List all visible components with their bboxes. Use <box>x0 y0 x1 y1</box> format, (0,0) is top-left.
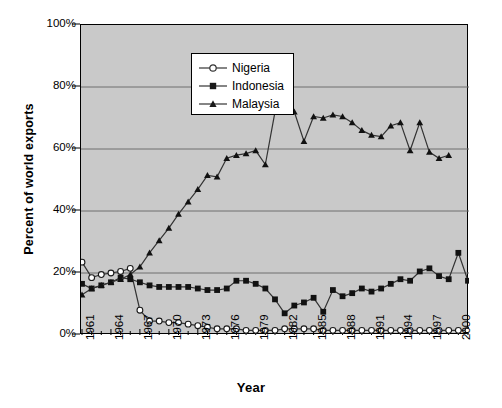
x-axis-tick-label: 1991 <box>375 314 386 340</box>
data-point-indonesia <box>388 281 394 287</box>
data-point-indonesia <box>291 303 297 309</box>
x-axis-tick-label: 1997 <box>432 314 443 340</box>
legend-item-nigeria[interactable]: Nigeria <box>192 59 293 77</box>
data-point-indonesia <box>205 287 211 293</box>
data-point-indonesia <box>262 286 268 292</box>
y-axis-ticks <box>70 0 80 408</box>
data-point-indonesia <box>156 284 162 290</box>
data-point-malaysia <box>397 119 404 125</box>
data-point-nigeria <box>81 259 85 265</box>
data-point-nigeria <box>243 327 249 333</box>
data-point-indonesia <box>137 279 143 285</box>
data-point-indonesia <box>407 278 413 284</box>
data-point-indonesia <box>176 284 182 290</box>
x-axis-tick-label: 1982 <box>288 314 299 340</box>
filled-triangle-marker-icon <box>198 98 228 110</box>
data-point-malaysia <box>416 119 423 125</box>
open-circle-marker-icon <box>198 62 228 74</box>
data-point-nigeria <box>446 327 452 333</box>
data-point-malaysia <box>330 112 337 118</box>
data-point-nigeria <box>137 307 143 313</box>
data-point-indonesia <box>81 281 85 287</box>
legend: Nigeria Indonesia Malays <box>191 53 294 115</box>
data-point-nigeria <box>156 318 162 324</box>
data-point-nigeria <box>89 275 95 281</box>
data-point-indonesia <box>378 286 384 292</box>
data-point-indonesia <box>253 281 259 287</box>
filled-square-marker-icon <box>198 80 228 92</box>
data-point-indonesia <box>369 289 375 295</box>
x-axis-tick-label: 1964 <box>114 314 125 340</box>
data-point-indonesia <box>301 300 307 306</box>
legend-item-indonesia[interactable]: Indonesia <box>192 77 293 95</box>
data-point-nigeria <box>98 272 104 278</box>
data-point-indonesia <box>398 276 404 282</box>
data-point-indonesia <box>195 286 201 292</box>
x-axis-tick-label: 1973 <box>201 314 212 340</box>
data-point-nigeria <box>417 327 423 333</box>
data-point-malaysia <box>368 132 375 138</box>
series-line-malaysia <box>82 110 449 294</box>
y-axis-title: Percent of world exports <box>22 84 36 274</box>
x-axis-tick-label: 1976 <box>230 314 241 340</box>
data-point-nigeria <box>388 327 394 333</box>
legend-item-malaysia[interactable]: Malaysia <box>192 95 293 113</box>
data-point-indonesia <box>349 290 355 296</box>
data-point-malaysia <box>407 147 414 153</box>
data-point-indonesia <box>185 284 191 290</box>
data-point-indonesia <box>455 250 461 256</box>
data-point-malaysia <box>426 149 433 155</box>
data-point-malaysia <box>349 119 356 125</box>
x-axis-tick-label: 1967 <box>143 314 154 340</box>
data-point-indonesia <box>234 278 240 284</box>
chart-container: 100%80%60%40%20%0% Percent of world expo… <box>0 0 502 408</box>
data-point-indonesia <box>417 269 423 275</box>
data-point-nigeria <box>118 269 124 275</box>
legend-label: Nigeria <box>232 62 270 74</box>
legend-label: Malaysia <box>232 98 279 110</box>
x-axis-tick-label: 1970 <box>172 314 183 340</box>
data-point-nigeria <box>272 327 278 333</box>
data-point-malaysia <box>310 113 317 119</box>
x-axis-tick-labels: 1961196419671970197319761979198219851988… <box>80 338 472 386</box>
data-point-malaysia <box>204 172 211 178</box>
x-axis-tick-label: 1979 <box>259 314 270 340</box>
data-point-indonesia <box>340 293 346 299</box>
data-point-indonesia <box>147 283 153 289</box>
y-axis-tick-labels: 100%80%60%40%20%0% <box>32 0 76 408</box>
data-point-indonesia <box>436 273 442 279</box>
data-point-malaysia <box>301 138 308 144</box>
data-point-indonesia <box>446 276 452 282</box>
data-point-indonesia <box>214 287 220 293</box>
data-point-indonesia <box>166 284 172 290</box>
data-point-nigeria <box>301 326 307 332</box>
data-point-indonesia <box>330 287 336 293</box>
data-point-indonesia <box>243 278 249 284</box>
data-point-indonesia <box>311 295 317 301</box>
data-point-nigeria <box>127 265 133 271</box>
data-point-nigeria <box>359 327 365 333</box>
data-point-indonesia <box>272 296 278 302</box>
data-point-nigeria <box>185 321 191 327</box>
plot-area: Nigeria Indonesia Malays <box>80 24 468 334</box>
data-point-malaysia <box>445 152 452 158</box>
x-axis-tick-label: 1994 <box>403 314 414 340</box>
x-axis-tick-label: 1988 <box>346 314 357 340</box>
legend-label: Indonesia <box>232 80 284 92</box>
x-axis-tick-label: 1985 <box>317 314 328 340</box>
x-axis-tick-label: 2000 <box>461 314 472 340</box>
x-axis-title: Year <box>0 380 502 395</box>
data-point-nigeria <box>108 270 114 276</box>
data-point-indonesia <box>224 286 230 292</box>
data-point-indonesia <box>427 265 433 271</box>
data-point-indonesia <box>359 286 365 292</box>
data-point-nigeria <box>214 326 220 332</box>
data-point-indonesia <box>465 278 469 284</box>
x-axis-tick-label: 1961 <box>85 314 96 340</box>
data-point-malaysia <box>252 147 259 153</box>
data-point-nigeria <box>330 327 336 333</box>
